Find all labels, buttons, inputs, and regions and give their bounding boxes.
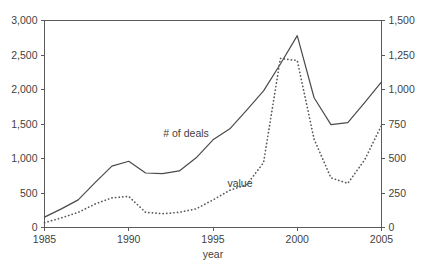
series-layer [45, 36, 382, 223]
left-tick-label: 1,500 [11, 118, 37, 130]
series-annotation: value [227, 177, 252, 189]
left-tick-label: 1,000 [11, 152, 37, 164]
x-axis-ticks: 19851990199520002005 [33, 228, 394, 245]
x-axis-title: year [203, 248, 224, 260]
right-tick-label: 250 [389, 187, 407, 199]
right-tick-label: 750 [389, 118, 407, 130]
chart-container: 05001,0001,5002,0002,5003,000 0250500750… [0, 0, 425, 268]
left-axis-ticks: 05001,0001,5002,0002,5003,000 [11, 14, 44, 233]
right-tick-label: 1,000 [389, 83, 415, 95]
right-tick-label: 1,500 [389, 14, 415, 26]
left-tick-label: 3,000 [11, 14, 37, 26]
series-annotation: # of deals [163, 127, 209, 139]
left-tick-label: 2,000 [11, 83, 37, 95]
right-tick-label: 0 [389, 221, 395, 233]
left-tick-label: 500 [20, 187, 38, 199]
series-annotations: # of dealsvalue [163, 127, 252, 189]
x-tick-label: 1990 [117, 233, 141, 245]
left-tick-label: 0 [32, 221, 38, 233]
right-axis-ticks: 02505007501,0001,2501,500 [382, 14, 415, 233]
x-tick-label: 1985 [33, 233, 57, 245]
line-chart: 05001,0001,5002,0002,5003,000 0250500750… [0, 0, 425, 268]
right-tick-label: 1,250 [389, 49, 415, 61]
left-tick-label: 2,500 [11, 49, 37, 61]
x-tick-label: 1995 [201, 233, 225, 245]
right-tick-label: 500 [389, 152, 407, 164]
x-tick-label: 2000 [286, 233, 310, 245]
x-tick-label: 2005 [370, 233, 394, 245]
series-line--of-deals [45, 36, 382, 217]
